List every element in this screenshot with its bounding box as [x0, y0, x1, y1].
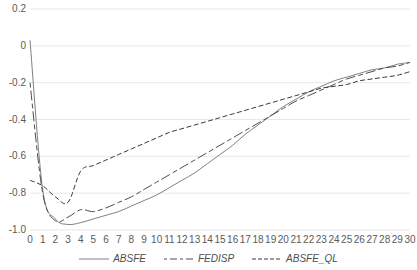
plot-area — [0, 0, 417, 270]
chart-container: 0.20-0.2-0.4-0.6-0.8-1.0 012345678910111… — [0, 0, 417, 270]
series-line-absfe-ql — [30, 72, 410, 204]
series-lines — [30, 40, 410, 224]
series-line-fedisp — [30, 62, 410, 222]
legend-swatch-fedisp — [164, 255, 194, 263]
legend-swatch-absfe — [79, 255, 109, 263]
legend-label-absfe: ABSFE — [113, 254, 146, 264]
legend-item-fedisp[interactable]: FEDISP — [164, 254, 234, 264]
legend-label-absfe-ql: ABSFE_QL — [286, 254, 338, 264]
legend-swatch-absfe-ql — [252, 255, 282, 263]
legend-label-fedisp: FEDISP — [198, 254, 234, 264]
gridlines — [30, 9, 410, 230]
legend-item-absfe-ql[interactable]: ABSFE_QL — [252, 254, 338, 264]
legend-item-absfe[interactable]: ABSFE — [79, 254, 146, 264]
chart-legend: ABSFE FEDISP ABSFE_QL — [0, 250, 417, 268]
series-line-absfe — [30, 40, 410, 224]
